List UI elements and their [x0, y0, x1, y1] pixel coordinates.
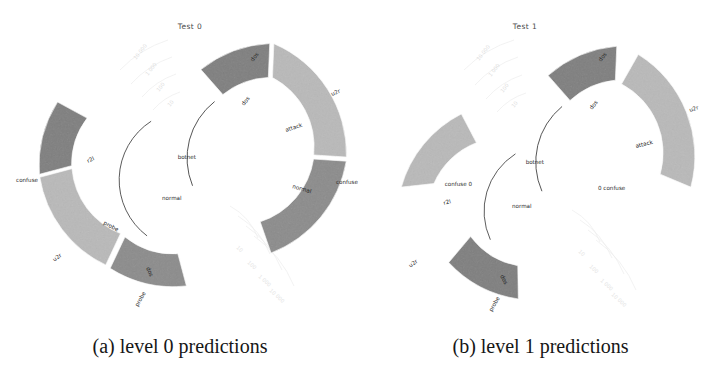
svg-text:100: 100	[155, 81, 166, 93]
radial-tick-labels-lower-b: 10 100 1 000 10 000	[577, 248, 628, 308]
svg-text:10: 10	[235, 244, 244, 253]
radial-tick-labels-upper: 10 000 1 000 100 10	[132, 43, 175, 108]
cluster-botnet-test1: dos attack dos u2r 0 confuse botnet	[526, 30, 721, 191]
svg-text:1 000: 1 000	[599, 277, 614, 291]
wedge-label-dos-right-b: dos	[588, 99, 599, 111]
svg-text:1 000: 1 000	[257, 273, 272, 287]
outer-label-u2r-b: u2r	[408, 258, 420, 269]
outer-label-confuse-right: confuse	[336, 179, 358, 185]
wedge-r2l-texture	[30, 98, 94, 174]
svg-text:10: 10	[510, 100, 519, 109]
center-arc-botnet	[178, 98, 217, 186]
wedge-label-attack-b: attack	[635, 139, 654, 149]
center-label-normal: normal	[162, 195, 182, 201]
caption-panel-b: (b) level 1 predictions	[360, 335, 721, 358]
outer-label-0confuse: 0 confuse	[598, 185, 626, 191]
center-label-botnet: botnet	[178, 154, 197, 160]
svg-text:10: 10	[166, 99, 175, 108]
outer-label-probe: probe	[134, 290, 148, 308]
svg-text:10 000: 10 000	[475, 44, 491, 62]
wedge-label-r2l: r2l	[86, 155, 96, 164]
outer-label-u2r-right-b: u2r	[688, 104, 699, 113]
outer-label-u2r: u2r	[52, 252, 64, 263]
center-label-normal-b: normal	[512, 203, 532, 209]
radial-gridlines-upper-b	[464, 40, 526, 112]
caption-panel-a: (a) level 0 predictions	[0, 335, 360, 358]
wedge-dos-left-texture	[106, 229, 186, 296]
svg-text:100: 100	[588, 263, 599, 274]
outer-label-u2r-right: u2r	[330, 88, 342, 97]
outer-label-confuse: confuse	[16, 177, 38, 183]
center-arc-normal	[111, 121, 167, 239]
wedge-label-dos-right: dos	[240, 95, 251, 107]
cluster-normal-test0: r2l probe dos confuse u2r probe normal	[16, 98, 186, 308]
center-label-botnet-b: botnet	[526, 159, 545, 165]
svg-text:100: 100	[499, 82, 510, 94]
wedge-probe-texture	[39, 163, 124, 272]
outer-label-confuse0: confuse 0	[445, 181, 473, 187]
figure-root: Test 0 10 000 1 000 100 10	[0, 0, 721, 368]
svg-text:1 000: 1 000	[487, 62, 501, 77]
wedge-dos-right-texture	[196, 27, 277, 105]
cluster-normal-test1: r2l dos confuse 0 u2r probe normal	[401, 109, 532, 313]
svg-text:100: 100	[246, 259, 257, 270]
center-arc-botnet-b	[526, 103, 566, 191]
svg-text:10: 10	[577, 248, 586, 257]
svg-text:1 000: 1 000	[144, 61, 158, 76]
figure-panel-a: Test 0 10 000 1 000 100 10	[0, 0, 360, 368]
wedge-dos-right-b-texture	[543, 30, 624, 111]
wedge-label-attack: attack	[284, 122, 303, 133]
outer-label-probe-b: probe	[488, 295, 502, 313]
center-arc-normal-b	[481, 151, 516, 241]
cluster-botnet-test0: dos attack normal dos u2r confuse botnet	[178, 27, 371, 266]
svg-text:10 000: 10 000	[132, 43, 148, 61]
wedge-dos-b-texture	[446, 235, 525, 299]
wedge-label-r2l-b: r2l	[443, 198, 452, 206]
svg-text:10 000: 10 000	[268, 287, 286, 304]
polar-chart-test0: 10 000 1 000 100 10 10 100 1 000 10 000	[0, 0, 360, 322]
svg-text:10 000: 10 000	[610, 291, 628, 308]
polar-chart-test1: 10 000 1 000 100 10 10 100 1 000 10 000	[360, 0, 721, 322]
figure-panel-b: Test 1 10 000 1 000 100 10	[360, 0, 721, 368]
wedge-attack-b-texture	[599, 52, 721, 187]
radial-tick-labels-lower: 10 100 1 000 10 000	[235, 244, 286, 304]
